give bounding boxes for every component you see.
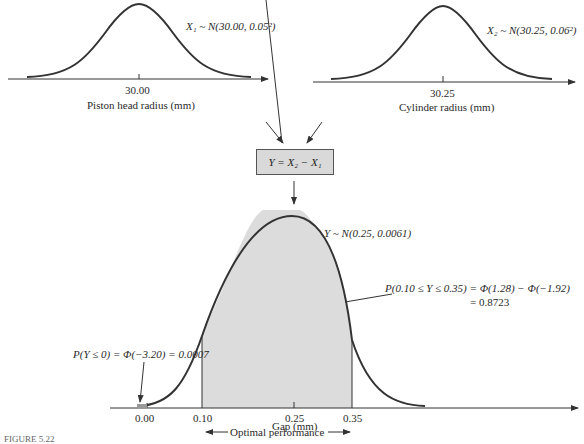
gap-distribution — [110, 210, 578, 432]
figure-caption: FIGURE 5.22 — [4, 434, 55, 444]
x2-distribution-label: X₂ ~ N(30.25, 0.06²) — [487, 24, 576, 36]
x1-tick-label: 30.00 — [125, 84, 150, 96]
x2-axis-label: Cylinder radius (mm) — [399, 101, 494, 113]
y-distribution-label: Y ~ N(0.25, 0.0061) — [324, 227, 411, 239]
x2-tick-label: 30.25 — [430, 87, 455, 99]
prob-optimal-line1: P(0.10 ≤ Y ≤ 0.35) = Φ(1.28) − Φ(−1.92) — [385, 282, 570, 294]
x1-distribution-label: X₁ ~ N(30.00, 0.05²) — [186, 20, 275, 32]
tick-0-35: 0.35 — [343, 412, 362, 424]
cylinder-distribution — [313, 6, 575, 82]
x1-axis-label: Piston head radius (mm) — [87, 99, 195, 111]
combine-formula-box: Y = X₂ − X₁ — [256, 149, 334, 175]
optimal-performance-label: Optimal performance — [230, 426, 324, 438]
tick-0-00: 0.00 — [135, 412, 154, 424]
piston-head-distribution — [8, 4, 268, 79]
prob-negative-gap: P(Y ≤ 0) = Φ(−3.20) = 0.0007 — [73, 348, 209, 360]
diagram-canvas — [0, 0, 584, 444]
tick-0-10: 0.10 — [193, 412, 212, 424]
prob-optimal-line2: = 0.8723 — [470, 296, 509, 308]
